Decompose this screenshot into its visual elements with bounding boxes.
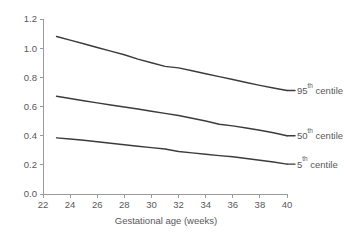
y-tick-label: 0.6 bbox=[24, 101, 37, 112]
series-label-group: 95th centile50th centile5th centile bbox=[287, 81, 343, 169]
x-tick-label: 40 bbox=[282, 199, 293, 210]
series-line bbox=[57, 37, 287, 91]
y-tick-label: 0.4 bbox=[24, 130, 37, 141]
series-label-text: centile bbox=[313, 85, 343, 96]
y-tick-label: 0.2 bbox=[24, 159, 37, 170]
chart-canvas: 0.00.20.40.60.81.01.2 222426283032343638… bbox=[0, 0, 345, 235]
x-tick-label: 36 bbox=[227, 199, 238, 210]
y-tick-label: 1.2 bbox=[24, 13, 37, 24]
y-tick-label: 1.0 bbox=[24, 43, 37, 54]
x-tick-label: 38 bbox=[255, 199, 266, 210]
x-tick-label: 24 bbox=[65, 199, 76, 210]
x-tick-label: 28 bbox=[119, 199, 130, 210]
x-tick-label: 32 bbox=[173, 199, 184, 210]
x-tick-label: 26 bbox=[92, 199, 103, 210]
centile-chart: 0.00.20.40.60.81.01.2 222426283032343638… bbox=[0, 0, 345, 235]
series-label: 95th centile bbox=[297, 81, 343, 96]
y-tick-label: 0.8 bbox=[24, 72, 37, 83]
series-label-number: 95 bbox=[297, 85, 308, 96]
series-label-number: 50 bbox=[297, 130, 308, 141]
y-tick-label: 0.0 bbox=[24, 188, 37, 199]
data-series-group bbox=[57, 37, 287, 165]
series-label-text: centile bbox=[308, 159, 338, 170]
x-tick-label: 34 bbox=[200, 199, 211, 210]
series-label-text: centile bbox=[313, 130, 343, 141]
axis-spine bbox=[43, 19, 287, 194]
x-tick-label: 22 bbox=[38, 199, 49, 210]
x-axis-ticks: 22242628303234363840 bbox=[38, 194, 293, 210]
x-tick-label: 30 bbox=[146, 199, 157, 210]
series-label: 50th centile bbox=[297, 126, 343, 141]
series-line bbox=[57, 96, 287, 135]
series-line bbox=[57, 138, 287, 164]
series-label: 5th centile bbox=[297, 155, 338, 170]
y-axis-ticks: 0.00.20.40.60.81.01.2 bbox=[24, 13, 43, 199]
x-axis-title: Gestational age (weeks) bbox=[115, 215, 217, 226]
axis-group bbox=[43, 19, 287, 194]
